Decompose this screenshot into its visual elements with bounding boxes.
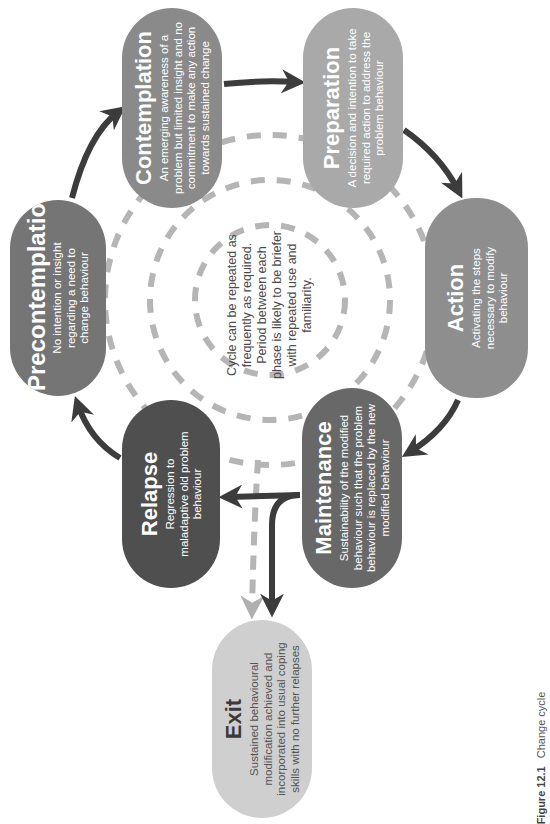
- figure-title: Change cycle: [535, 692, 547, 759]
- stage-description: Sustainability of the modified behaviour…: [338, 393, 392, 583]
- figure-label: Figure 12.1: [535, 766, 547, 824]
- arrow-action-to-maintenance: [410, 400, 458, 452]
- stage-title: Precontemplation: [25, 205, 49, 391]
- stage-description: No intention or insight regarding a need…: [51, 205, 92, 391]
- cycle-note: Cycle can be repeated as frequently as r…: [225, 230, 315, 380]
- stage-title: Relapse: [138, 405, 162, 583]
- stage-title: Maintenance: [312, 393, 336, 583]
- stage-relapse: Relapse Regression to maladaptive old pr…: [122, 400, 220, 588]
- stage-title: Action: [443, 203, 467, 393]
- stage-contemplation: Contemplation An emerging awareness of a…: [122, 8, 222, 208]
- arrow-precontemplation-to-contemplation: [72, 112, 118, 198]
- arrow-maintenance-to-exit: [272, 495, 300, 608]
- stage-description: An emerging awareness of a problem but l…: [158, 13, 212, 203]
- stage-description: A decision and intention to take require…: [346, 13, 387, 203]
- stage-description: Regression to maladaptive old problem be…: [164, 405, 205, 583]
- stage-preparation: Preparation A decision and intention to …: [303, 8, 403, 208]
- arrow-relapse-to-precontemplation: [78, 405, 120, 458]
- arrow-contemplation-to-preparation: [224, 81, 296, 84]
- stage-title: Exit: [222, 625, 246, 813]
- stage-description: Activating the steps necessary to modify…: [469, 203, 510, 393]
- stage-action: Action Activating the steps necessary to…: [425, 198, 528, 398]
- stage-exit: Exit Sustained behavioural modification …: [212, 620, 312, 818]
- stage-description: Sustained behavioural modification achie…: [248, 625, 302, 813]
- arrow-preparation-to-action: [404, 130, 458, 190]
- stage-maintenance: Maintenance Sustainability of the modifi…: [302, 388, 402, 588]
- dashed-exit-path: [252, 460, 258, 610]
- figure-caption: Figure 12.1Change cycle: [535, 692, 547, 824]
- stage-precontemplation: Precontemplation No intention or insight…: [10, 200, 106, 396]
- stage-title: Contemplation: [132, 13, 156, 203]
- stage-title: Preparation: [320, 13, 344, 203]
